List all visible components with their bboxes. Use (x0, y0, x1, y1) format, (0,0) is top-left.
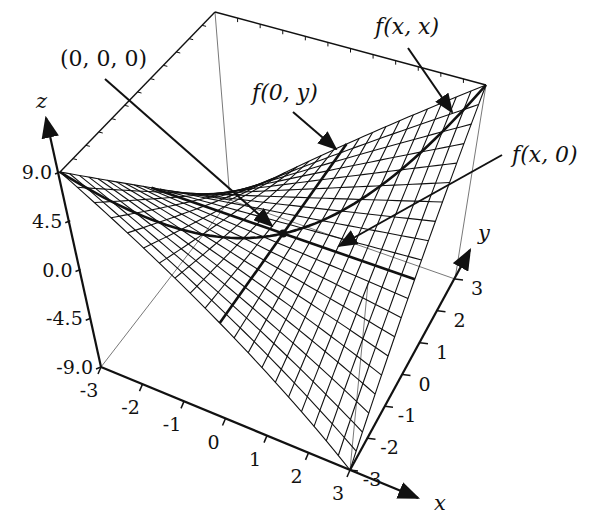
y-tick-label: 0 (418, 373, 430, 395)
x-tick-mark (140, 384, 143, 391)
y-tick-label: -3 (363, 468, 382, 490)
z-tick-label: 4.5 (32, 210, 62, 232)
z-tick-label: -4.5 (46, 307, 83, 329)
x-tick-mark (223, 419, 226, 426)
z-tick-label: 0.0 (42, 259, 72, 281)
x-tick-mark (347, 470, 350, 477)
y-tick-label: 2 (453, 309, 465, 331)
y-tick-label: -2 (380, 436, 399, 458)
x-tick-label: 3 (332, 482, 344, 504)
y-tick-label: 1 (436, 341, 448, 363)
tick-mark (138, 92, 142, 93)
x-axis-label: x (434, 491, 446, 515)
y-tick-label: 3 (471, 277, 483, 299)
tick-mark (202, 25, 206, 26)
z-tick-label: -9.0 (56, 356, 93, 378)
x-tick-mark (306, 453, 309, 460)
arrow-f-0-y (293, 112, 336, 149)
x-tick-mark (181, 401, 184, 408)
z-tick-label: 9.0 (22, 161, 52, 183)
annotations: (0, 0, 0)f(0, y)f(x, x)f(x, 0) (60, 14, 578, 246)
tick-mark (125, 105, 129, 106)
tick-mark (112, 119, 116, 120)
arrow-origin (105, 79, 272, 226)
x-tick-label: -2 (121, 396, 140, 418)
mesh-line-y (107, 180, 381, 375)
saddle-surface-plot: -9.0-4.50.04.59.0-3-2-10123-3-2-10123zxy… (0, 0, 590, 523)
y-tick-mark (385, 406, 393, 407)
y-tick-mark (420, 343, 428, 344)
tick-mark (163, 65, 167, 66)
tick-mark (189, 39, 193, 40)
y-tick-label: -1 (398, 404, 417, 426)
y-tick-mark (403, 375, 411, 376)
arrow-f-x-x (408, 48, 452, 112)
mesh-line-y (134, 185, 401, 318)
origin-point (279, 230, 287, 238)
mesh-line-y (79, 175, 362, 432)
y-tick-mark (368, 438, 376, 439)
x-tick-label: 2 (290, 465, 302, 487)
tick-mark (86, 145, 90, 146)
axes (46, 118, 470, 498)
annotation-f-x-0: f(x, 0) (510, 142, 578, 167)
z-axis (46, 118, 101, 367)
tick-mark (99, 132, 103, 133)
box-edge (215, 12, 230, 200)
y-tick-mark (455, 279, 463, 280)
tick-mark (176, 52, 180, 53)
tick-mark (73, 159, 77, 160)
y-tick-mark (350, 470, 358, 471)
tick-mark (150, 79, 154, 80)
x-tick-label: 0 (207, 431, 219, 453)
x-tick-label: -1 (163, 413, 182, 435)
annotation-origin: (0, 0, 0) (60, 46, 147, 71)
x-tick-label: 1 (249, 448, 261, 470)
x-tick-mark (264, 436, 267, 443)
y-tick-mark (438, 311, 446, 312)
z-axis-label: z (35, 89, 48, 113)
annotation-f-x-x: f(x, x) (373, 14, 439, 39)
annotation-f-0-y: f(0, y) (250, 80, 318, 105)
y-axis-label: y (477, 221, 491, 245)
x-tick-label: -3 (80, 379, 99, 401)
